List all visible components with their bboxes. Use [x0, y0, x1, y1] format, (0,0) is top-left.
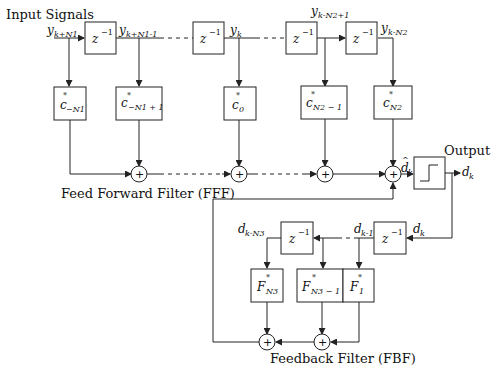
svg-text:−N1: −N1	[66, 105, 85, 114]
svg-text:+: +	[135, 168, 144, 181]
ff-summer-3: +	[317, 166, 333, 182]
main-summer: +	[385, 166, 401, 182]
svg-text:0: 0	[239, 105, 244, 114]
svg-text:−1: −1	[209, 28, 221, 37]
signal-d-k-output: d k	[462, 165, 474, 181]
output-label: Output	[444, 143, 491, 158]
ff-delay-2: z −1	[193, 22, 224, 54]
svg-text:k-1: k-1	[361, 229, 374, 238]
svg-text:y: y	[380, 21, 388, 35]
svg-text:*: *	[312, 273, 316, 282]
signal-d-k-1: d k-1	[354, 222, 374, 238]
ff-summer-2: +	[231, 166, 247, 182]
signal-y-k-n1: y k+N1	[46, 23, 78, 39]
fb-delay-1: z −1	[374, 222, 406, 254]
svg-text:k-N2+1: k-N2+1	[318, 11, 349, 20]
svg-text:k: k	[237, 30, 242, 39]
ff-tap-c-n2-minus-1: * c N2 − 1	[301, 86, 347, 119]
svg-text:−1: −1	[302, 28, 314, 37]
ff-delay-1: z −1	[85, 22, 116, 54]
svg-text:z: z	[352, 32, 360, 46]
signal-y-k-n2-1: y k-N2+1	[310, 4, 349, 20]
svg-text:+: +	[389, 168, 398, 181]
signal-y-k-n1-1: y k+N1-1	[118, 23, 157, 39]
svg-text:1: 1	[359, 287, 364, 296]
ff-tap-c-minus-n1: * c −N1	[54, 87, 86, 120]
svg-text:k-N3: k-N3	[245, 229, 265, 238]
fb-sum-wires	[213, 183, 393, 342]
svg-text:−N1 + 1: −N1 + 1	[128, 103, 164, 112]
svg-text:k: k	[469, 172, 474, 181]
svg-text:+: +	[318, 336, 327, 349]
svg-text:y: y	[46, 23, 54, 37]
fb-tap-f-n3-minus-1: * F N3 − 1	[297, 269, 343, 302]
ff-summer-1: +	[131, 166, 147, 182]
svg-text:z: z	[292, 32, 300, 46]
svg-text:c: c	[232, 98, 239, 112]
ff-delay-4: z −1	[346, 22, 377, 54]
svg-text:N2: N2	[389, 103, 402, 112]
ff-sum-wires	[70, 119, 393, 174]
svg-text:k+N1-1: k+N1-1	[126, 30, 157, 39]
svg-text:y: y	[118, 23, 126, 37]
fb-summer-1: +	[259, 334, 275, 350]
fff-label: Feed Forward Filter (FFF)	[61, 186, 235, 201]
svg-text:k+N1: k+N1	[54, 30, 78, 39]
fb-summer-2: +	[314, 334, 330, 350]
svg-text:k-N2: k-N2	[388, 28, 408, 37]
signal-y-k: y k	[229, 23, 242, 39]
svg-text:−1: −1	[298, 228, 310, 237]
svg-text:k: k	[420, 229, 425, 238]
svg-text:F: F	[349, 280, 359, 294]
svg-text:F: F	[301, 280, 311, 294]
input-signals-label: Input Signals	[6, 7, 94, 22]
ff-delay-3: z −1	[286, 22, 317, 54]
fb-delay-2: z −1	[281, 222, 313, 254]
signal-y-k-n2: y k-N2	[380, 21, 408, 37]
fbf-label: Feedback Filter (FBF)	[270, 351, 416, 366]
ff-tap-wires	[69, 38, 393, 86]
ff-tap-c-0: * c 0	[224, 87, 256, 120]
dfe-block-diagram: Input Signals Output Feed Forward Filter…	[0, 0, 491, 373]
svg-text:z: z	[381, 232, 389, 246]
svg-text:−1: −1	[391, 228, 403, 237]
svg-text:N3 − 1: N3 − 1	[310, 287, 340, 296]
svg-text:z: z	[199, 32, 207, 46]
svg-text:+: +	[263, 336, 272, 349]
svg-text:+: +	[321, 168, 330, 181]
svg-text:z: z	[288, 232, 296, 246]
fb-tap-f-n3: * F N3	[251, 269, 283, 302]
svg-text:N3: N3	[265, 287, 278, 296]
ff-tap-c-n2: * c N2	[374, 86, 412, 119]
svg-text:−1: −1	[362, 28, 374, 37]
signal-d-k-n3: d k-N3	[238, 222, 265, 238]
svg-text:c: c	[383, 96, 390, 110]
decision-device	[414, 157, 445, 189]
fb-tap-f-1: * F 1	[343, 269, 374, 302]
svg-text:−1: −1	[101, 28, 113, 37]
ff-tap-c-minus-n1-plus-1: * c −N1 + 1	[116, 87, 164, 120]
svg-text:y: y	[310, 4, 318, 18]
svg-text:c: c	[121, 96, 128, 110]
svg-text:*: *	[358, 273, 362, 282]
svg-text:z: z	[91, 32, 99, 46]
signal-d-k-feedback: d k	[413, 222, 425, 238]
svg-text:k: k	[408, 168, 413, 177]
svg-text:+: +	[235, 168, 244, 181]
svg-text:y: y	[229, 23, 237, 37]
svg-text:c: c	[306, 96, 313, 110]
svg-text:F: F	[256, 280, 266, 294]
svg-text:*: *	[266, 273, 270, 282]
svg-text:N2 − 1: N2 − 1	[312, 103, 342, 112]
